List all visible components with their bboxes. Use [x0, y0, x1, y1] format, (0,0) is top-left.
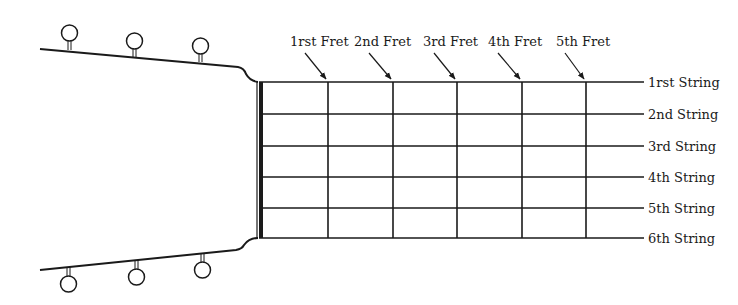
tuning-peg-top-3 [193, 38, 209, 62]
tuning-peg-bottom-3 [195, 254, 211, 278]
fret-label-5: 5th Fret [556, 34, 611, 49]
string-label-2: 2nd String [648, 107, 718, 122]
fret-arrow-3 [434, 53, 455, 79]
tuning-peg-top-1 [62, 25, 78, 50]
headstock-bottom-edge [40, 238, 258, 270]
fret-label-2: 2nd Fret [354, 34, 412, 49]
fret-arrow-5 [565, 53, 584, 79]
fret-arrow-4 [498, 53, 520, 79]
headstock-top-edge [40, 49, 258, 82]
string-label-6: 6th String [648, 231, 715, 246]
fret-arrow-2 [369, 53, 391, 79]
fret-label-1: 1rst Fret [290, 34, 349, 49]
frets [328, 82, 586, 238]
string-label-1: 1rst String [648, 75, 720, 90]
fret-label-4: 4th Fret [488, 34, 543, 49]
tuning-peg-top-2 [127, 33, 143, 57]
guitar-fretboard-diagram: 1rst Fret 2nd Fret 3rd Fret 4th Fret 5th… [0, 0, 738, 305]
string-label-3: 3rd String [648, 139, 716, 154]
string-label-4: 4th String [648, 170, 715, 185]
string-label-5: 5th String [648, 201, 715, 216]
tuning-peg-bottom-2 [129, 260, 145, 285]
nut [259, 82, 263, 238]
fret-arrow-1 [305, 53, 326, 79]
fret-label-3: 3rd Fret [423, 34, 479, 49]
tuning-peg-bottom-1 [61, 267, 77, 292]
